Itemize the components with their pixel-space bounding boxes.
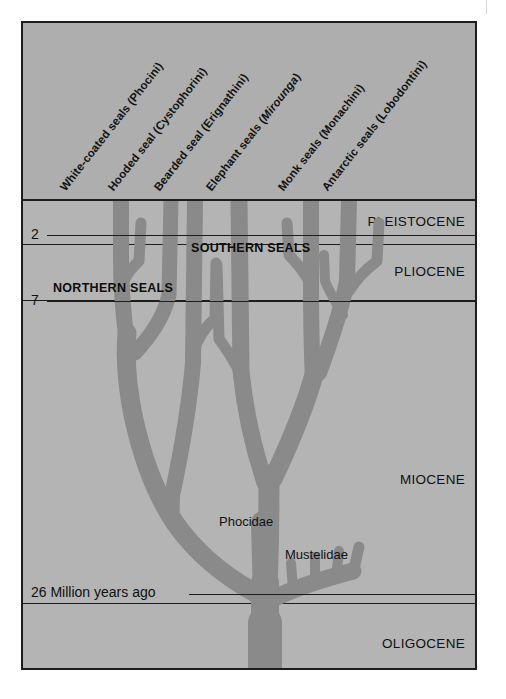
page-margin-rule bbox=[486, 0, 487, 14]
phylogeny-figure: PLEISTOCENE PLIOCENE MIOCENE OLIGOCENE bbox=[21, 21, 477, 670]
group-label-northern-seals: NORTHERN SEALS bbox=[53, 281, 173, 295]
clade-label-phocidae: Phocidae bbox=[219, 514, 273, 529]
axis-tick-2-label: 2 bbox=[31, 226, 39, 242]
taxon-label-band: White-coated seals (Phocini) Hooded seal… bbox=[23, 23, 475, 201]
taxon-label-monachini: Monk seals (Monachini) bbox=[276, 82, 367, 193]
axis-tick-26-label: 26 Million years ago bbox=[31, 584, 156, 600]
taxon-label-phocini: White-coated seals (Phocini) bbox=[58, 60, 166, 193]
axis-tick-7-label: 7 bbox=[31, 292, 39, 308]
clade-label-mustelidae: Mustelidae bbox=[285, 547, 348, 562]
axis-rule-7 bbox=[47, 301, 475, 302]
group-label-southern-seals: SOUTHERN SEALS bbox=[191, 241, 311, 255]
axis-rule-2 bbox=[47, 235, 475, 236]
taxon-label-cystophorini: Hooded seal (Cystophorini) bbox=[106, 65, 209, 193]
taxon-label-erignathini: Bearded seal (Erignathini) bbox=[152, 71, 251, 193]
axis-rule-26 bbox=[189, 594, 475, 595]
